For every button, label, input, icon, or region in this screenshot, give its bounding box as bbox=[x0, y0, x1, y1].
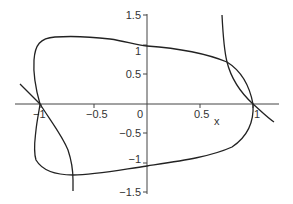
x-axis-label: x bbox=[214, 115, 220, 127]
y-tick-label: 1.5 bbox=[126, 9, 141, 21]
y-tick-label: −0.5 bbox=[119, 127, 141, 139]
implicit-curve-plot: −1 −0.5 0 0.5 1 1.5 1 0.5 −0.5 −1 −1.5 x bbox=[0, 0, 293, 204]
y-tick-label: 1 bbox=[135, 45, 141, 57]
y-tick-label: 0.5 bbox=[126, 68, 141, 80]
axes bbox=[15, 14, 279, 194]
y-tick-label: −1.5 bbox=[119, 186, 141, 198]
x-tick-label: 0 bbox=[137, 108, 143, 120]
x-tick-label: −0.5 bbox=[86, 108, 108, 120]
y-tick-label: −1 bbox=[128, 153, 141, 165]
x-tick-label: 0.5 bbox=[194, 108, 209, 120]
closed-loop-curve bbox=[34, 36, 253, 175]
right-branch-curve bbox=[222, 15, 274, 122]
